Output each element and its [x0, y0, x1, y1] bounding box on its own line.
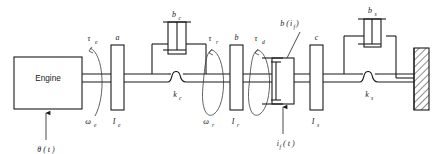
omega-e-subscript: e	[94, 122, 97, 128]
omega-e-label: ω	[85, 117, 91, 126]
inertia-Ie-top-label: a	[116, 33, 120, 42]
damper-bc-label: b	[172, 10, 176, 19]
rotational-mechanical-diagram: Engine θ ( t ) τ e ω e a I e b c	[0, 0, 442, 154]
inertia-Ie-subscript: e	[118, 122, 121, 128]
inertia-Is-label: I	[311, 117, 315, 126]
tau-e-omega-e-group: τ e ω e	[85, 34, 102, 128]
schematic-canvas: Engine θ ( t ) τ e ω e a I e b c	[0, 0, 442, 154]
tau-d-group: τ d	[248, 34, 269, 115]
theta-input-signal: θ ( t )	[37, 113, 55, 154]
tau-r-subscript: r	[216, 39, 219, 45]
damper-bc-subscript: c	[179, 15, 182, 21]
if-current-signal: i f ( t )	[277, 107, 295, 150]
tau-e-label: τ	[88, 34, 92, 43]
inertia-Is: c I s	[310, 33, 323, 128]
clutch-label-var: i	[290, 19, 292, 28]
inertia-Ir-label: I	[231, 117, 235, 126]
tau-r-label: τ	[209, 34, 213, 43]
tau-d-subscript: d	[262, 39, 265, 45]
ground-wall	[414, 48, 429, 110]
damper-bs-label: b	[368, 6, 372, 15]
inertia-Ir-top-label: b	[235, 33, 239, 42]
damper-bs: b s	[344, 6, 414, 78]
omega-r-label: ω	[203, 117, 209, 126]
if-current-label-tail: ( t )	[283, 139, 295, 148]
inertia-Ie-label: I	[112, 117, 116, 126]
inertia-Is-subscript: s	[317, 122, 319, 128]
engine-block-label: Engine	[35, 74, 61, 83]
clutch-bif: b ( i f )	[262, 19, 300, 104]
tau-e-arrowhead	[89, 47, 93, 53]
clutch-label-prefix: b (	[280, 19, 290, 28]
tau-e-subscript: e	[95, 39, 98, 45]
spring-ks-subscript: s	[371, 95, 373, 101]
damper-bc: b c	[152, 10, 206, 74]
damper-bs-subscript: s	[375, 11, 377, 17]
inertia-Ie: a I e	[111, 33, 124, 128]
tau-d-loop	[248, 50, 269, 115]
spring-ks: k s	[360, 72, 378, 102]
spring-kc-subscript: c	[179, 95, 182, 101]
clutch-leader-line	[287, 32, 300, 58]
tau-d-label: τ	[255, 34, 259, 43]
spring-ks-label: k	[365, 90, 369, 99]
engine-block: Engine	[14, 57, 82, 109]
clutch-label-suffix: )	[295, 19, 299, 28]
spring-kc: k c	[168, 72, 186, 102]
inertia-Ir: b I r	[230, 33, 243, 128]
spring-kc-label: k	[173, 90, 177, 99]
omega-r-subscript: r	[212, 122, 215, 128]
inertia-Ir-subscript: r	[237, 122, 240, 128]
inertia-Is-top-label: c	[315, 33, 319, 42]
theta-input-label: θ ( t )	[37, 145, 55, 154]
